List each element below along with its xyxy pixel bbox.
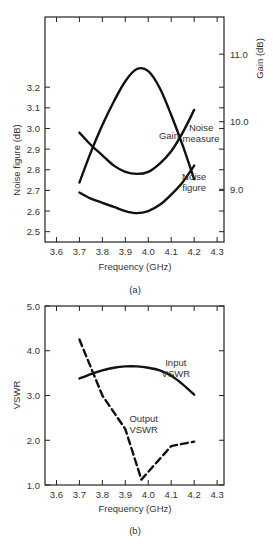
y-tick-label: 3.0 [27,123,40,134]
x-tick-label: 4.1 [165,246,178,257]
series-label: Noise [189,122,213,133]
y-tick-label: 3.1 [27,102,40,113]
y-right-axis-label: Gain (dB) [254,38,265,79]
y-axis-label: Noise figure (dB) [11,124,22,195]
y-axis-label: VSWR [11,381,22,410]
x-tick-label: 4.1 [165,489,178,500]
x-tick-label: 3.9 [119,246,132,257]
x-tick-label: 4.0 [142,246,155,257]
y-tick-label: 5.0 [27,301,40,312]
chart-b-vswr: 3.63.73.83.94.04.14.24.31.02.03.04.05.0V… [11,301,224,501]
x-tick-label: 3.9 [119,489,132,500]
series-label: Gain [159,130,179,141]
x-tick-label: 3.8 [96,489,109,500]
chart-a-xlabel: Frequency (GHz) [99,261,172,272]
x-tick-label: 4.2 [188,489,201,500]
x-tick-label: 3.8 [96,246,109,257]
chart-a-gain-noise: 3.63.73.83.94.04.14.24.32.52.62.72.82.93… [11,17,265,257]
y-tick-label: 1.0 [27,480,40,491]
x-tick-label: 4.0 [142,489,155,500]
series-gain-line [79,68,194,182]
x-tick-label: 3.7 [73,246,86,257]
chart-b-xlabel: Frequency (GHz) [99,503,172,514]
y-tick-label: 2.0 [27,435,40,446]
x-tick-label: 4.3 [211,246,224,257]
series-label: Input [165,357,186,368]
y-tick-label: 2.5 [27,226,40,237]
y-tick-label: 3.2 [27,82,40,93]
y-right-tick-label: 9.0 [230,184,243,195]
series-label: Noise [182,171,206,182]
series-label: Output [129,413,158,424]
x-tick-label: 3.7 [73,489,86,500]
series-label: figure [182,182,206,193]
chart-b-caption: (b) [129,525,141,536]
y-tick-label: 2.9 [27,144,40,155]
chart-a-caption: (a) [129,284,141,295]
x-tick-label: 4.3 [211,489,224,500]
y-tick-label: 2.7 [27,185,40,196]
series-label: VSWR [162,368,191,379]
series-label: measure [183,133,220,144]
y-tick-label: 4.0 [27,345,40,356]
figure: 3.63.73.83.94.04.14.24.32.52.62.72.82.93… [0,0,280,550]
y-tick-label: 2.8 [27,164,40,175]
x-tick-label: 3.6 [50,489,63,500]
y-right-tick-label: 11.0 [230,49,248,60]
x-tick-label: 3.6 [50,246,63,257]
y-right-tick-label: 10.0 [230,116,249,127]
y-tick-label: 2.6 [27,206,40,217]
series-label: VSWR [129,424,158,435]
x-tick-label: 4.2 [188,246,201,257]
series-noise-measure-line [79,110,194,174]
y-tick-label: 3.0 [27,390,40,401]
